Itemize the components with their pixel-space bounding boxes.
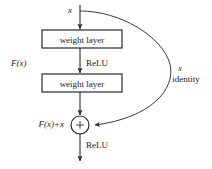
input-x-label: x [67,5,72,15]
branch-fx-label: F(x) [10,58,27,68]
identity-x-symbol: x [177,64,182,73]
identity-text-label: identity [172,74,200,84]
weight-layer-1-label: weight layer [60,35,105,45]
identity-skip-connection-curve [80,11,171,125]
relu-mid-label: ReLU [86,58,108,68]
diagram-canvas: weight layer ReLU weight layer ReLU x F(… [0,0,212,169]
sum-output-label: F(x)+x [37,119,64,129]
weight-layer-2-label: weight layer [60,79,105,89]
relu-out-label: ReLU [86,140,108,150]
residual-block-diagram: weight layer ReLU weight layer ReLU x F(… [0,0,212,169]
